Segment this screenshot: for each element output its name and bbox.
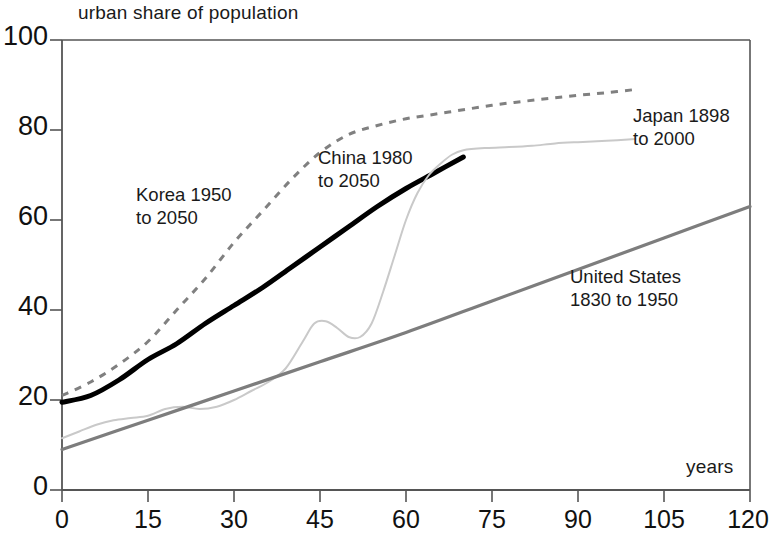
chart-title: urban share of population — [78, 2, 299, 24]
x-tick-label-0: 0 — [32, 505, 92, 533]
series-label-japan-line2: to 2000 — [633, 127, 730, 150]
series-line-korea — [62, 90, 635, 396]
x-axis-title: years — [686, 456, 733, 478]
y-tick-label-0: 0 — [0, 471, 48, 502]
series-label-japan-line1: Japan 1898 — [633, 104, 730, 127]
y-tick-label-40: 40 — [0, 291, 48, 322]
x-tick-label-60: 60 — [376, 505, 436, 533]
y-tick-label-60: 60 — [0, 201, 48, 232]
series-label-us-line2: 1830 to 1950 — [570, 288, 681, 311]
series-label-korea: Korea 1950 to 2050 — [136, 183, 232, 229]
x-tick-label-30: 30 — [204, 505, 264, 533]
series-label-china-line1: China 1980 — [318, 146, 413, 169]
y-axis-ticks — [50, 40, 62, 490]
x-axis-ticks — [62, 490, 750, 502]
series-label-china-line2: to 2050 — [318, 169, 413, 192]
series-label-japan: Japan 1898 to 2000 — [633, 104, 730, 150]
y-tick-label-80: 80 — [0, 111, 48, 142]
series-label-united-states: United States 1830 to 1950 — [570, 265, 681, 311]
x-tick-label-90: 90 — [548, 505, 608, 533]
y-tick-label-100: 100 — [0, 21, 48, 52]
series-line-china — [62, 157, 463, 402]
y-tick-label-20: 20 — [0, 381, 48, 412]
series-line-united — [62, 207, 750, 450]
series-label-us-line1: United States — [570, 265, 681, 288]
series-label-korea-line2: to 2050 — [136, 206, 232, 229]
x-tick-label-120: 120 — [718, 505, 773, 533]
x-tick-label-15: 15 — [118, 505, 178, 533]
series-label-korea-line1: Korea 1950 — [136, 183, 232, 206]
x-tick-label-45: 45 — [290, 505, 350, 533]
x-tick-label-105: 105 — [634, 505, 694, 533]
x-tick-label-75: 75 — [462, 505, 522, 533]
series-label-china: China 1980 to 2050 — [318, 146, 413, 192]
